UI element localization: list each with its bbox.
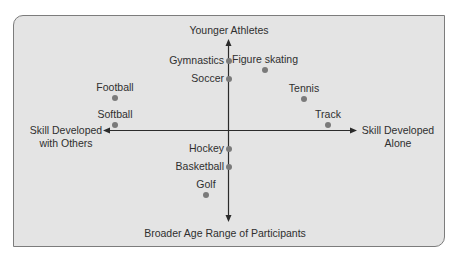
point-label-golf: Golf <box>196 178 215 190</box>
point-dot-hockey <box>226 146 232 152</box>
point-dot-tennis <box>301 96 307 102</box>
point-dot-softball <box>112 122 118 128</box>
point-label-gymnastics: Gymnastics <box>169 54 224 66</box>
point-dot-football <box>112 95 118 101</box>
point-dot-soccer <box>226 76 232 82</box>
axis-label-top: Younger Athletes <box>189 24 268 37</box>
point-dot-basketball <box>226 164 232 170</box>
point-dot-track <box>325 122 331 128</box>
axis-label-right-line1: Skill Developed <box>362 124 434 137</box>
point-label-figure-skating: Figure skating <box>232 53 298 65</box>
point-label-soccer: Soccer <box>191 72 224 84</box>
axis-label-left: Skill Developed with Others <box>30 124 102 150</box>
arrow-up-icon <box>226 39 232 46</box>
point-dot-figure-skating <box>262 67 268 73</box>
axis-label-bottom-text: Broader Age Range of Participants <box>144 227 306 240</box>
axis-label-bottom: Broader Age Range of Participants <box>144 227 306 240</box>
axis-label-left-line1: Skill Developed <box>30 124 102 137</box>
point-dot-golf <box>203 192 209 198</box>
axis-label-left-line2: with Others <box>30 137 102 150</box>
arrow-right-icon <box>350 128 357 134</box>
arrow-down-icon <box>226 215 232 222</box>
point-label-hockey: Hockey <box>189 142 224 154</box>
point-label-basketball: Basketball <box>176 160 224 172</box>
point-label-tennis: Tennis <box>289 82 319 94</box>
axis-label-top-text: Younger Athletes <box>189 24 268 37</box>
axis-label-right-line2: Alone <box>362 137 434 150</box>
arrow-left-icon <box>103 128 110 134</box>
point-label-track: Track <box>315 108 341 120</box>
point-label-softball: Softball <box>97 108 132 120</box>
point-label-football: Football <box>96 81 133 93</box>
axis-label-right: Skill Developed Alone <box>362 124 434 150</box>
